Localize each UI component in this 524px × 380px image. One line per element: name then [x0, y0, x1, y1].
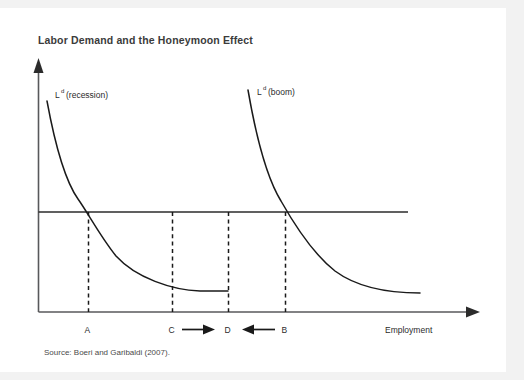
axis-tick-label-c: C	[169, 325, 175, 335]
left-arrow-icon-adjustment	[242, 325, 254, 335]
right-arrow-icon-adjustment	[203, 325, 215, 335]
curve-label-boom-superscript: d	[263, 85, 266, 91]
axis-tick-label-a: A	[85, 325, 91, 335]
curve-label-recession: L d (recession)	[55, 88, 108, 100]
curve-label-boom-base: L	[257, 87, 262, 97]
y-axis	[34, 58, 44, 312]
curve-labor-demand-boom	[248, 90, 420, 293]
figure-root: Labor Demand and the Honeymoon Effect L …	[0, 0, 524, 380]
curve-label-boom-suffix: (boom)	[268, 87, 295, 97]
axis-tick-label-b: B	[282, 325, 288, 335]
curve-labor-demand-recession	[47, 101, 228, 291]
curve-label-boom: L d (boom)	[257, 85, 295, 97]
curve-label-recession-suffix: (recession)	[66, 90, 108, 100]
curve-label-recession-superscript: d	[61, 88, 64, 94]
adjustment-arrow-right	[182, 325, 215, 335]
axis-tick-label-d: D	[225, 325, 231, 335]
curve-label-recession-base: L	[55, 90, 60, 100]
x-axis	[39, 307, 481, 318]
adjustment-arrow-left	[242, 325, 275, 335]
axis-title-employment: Employment	[385, 325, 433, 335]
chart-canvas: L d (recession) L d (boom) A C D B Emplo…	[0, 0, 524, 380]
source-note: Source: Boeri and Garibaldi (2007).	[44, 348, 170, 357]
right-arrow-icon	[466, 307, 480, 318]
up-arrow-icon	[34, 58, 44, 73]
